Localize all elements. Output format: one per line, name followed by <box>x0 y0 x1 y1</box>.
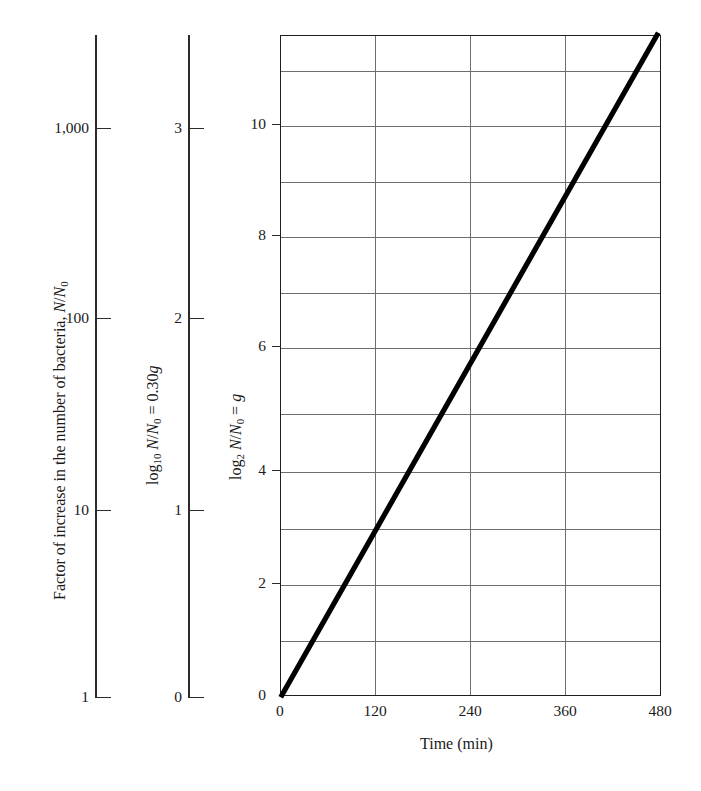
x-axis-tick-label-360: 360 <box>553 702 576 720</box>
factor-axis-caption-lead: Factor of increase in the number of bact… <box>51 313 68 600</box>
log2-axis-caption-equals: = <box>227 402 244 419</box>
log10-axis-line <box>188 35 190 697</box>
log2-axis-tick-label-4: 4 <box>232 462 266 478</box>
log10-axis-tick-2 <box>188 318 204 319</box>
log2-axis-caption-base: 2 <box>234 454 246 459</box>
log10-axis-tick-1 <box>188 510 204 511</box>
log10-axis-tick-0 <box>188 697 204 698</box>
x-axis-tick-label-0: 0 <box>276 702 284 720</box>
x-axis-label: Time (min) <box>420 735 493 753</box>
log10-axis-tick-label-0: 0 <box>150 689 182 705</box>
factor-axis-caption-n0: N <box>51 287 68 298</box>
factor-axis-tick-10 <box>95 510 111 511</box>
log2-axis-caption-g: g <box>227 394 244 402</box>
log10-axis-caption-n: N <box>144 439 161 450</box>
log10-axis-tick-label-3: 3 <box>150 120 182 136</box>
factor-axis-caption-sub0: 0 <box>58 281 70 286</box>
growth-curve-figure: 1,000 100 10 1 Factor of increase in the… <box>0 0 701 791</box>
log10-axis-tick-3 <box>188 128 204 129</box>
factor-axis-caption-n: N <box>51 302 68 313</box>
log10-axis-caption-slash: / <box>144 435 161 439</box>
x-axis-tick-label-240: 240 <box>458 702 481 720</box>
log2-axis-tick-label-2: 2 <box>232 575 266 591</box>
log10-axis-caption: log10 N/N0 = 0.30g <box>145 365 163 485</box>
factor-axis-tick-1000 <box>95 128 111 129</box>
growth-line-svg <box>281 36 662 697</box>
x-axis-tick-label-120: 120 <box>363 702 386 720</box>
log10-axis-tick-label-1: 1 <box>150 502 182 518</box>
log10-axis-caption-n0: N <box>144 424 161 435</box>
log2-axis-tick-label-0: 0 <box>232 687 266 703</box>
log10-axis-tick-label-2: 2 <box>150 310 182 326</box>
factor-axis-caption-slash: / <box>51 297 68 301</box>
plot-area <box>280 35 661 696</box>
log10-axis-caption-sub0: 0 <box>151 418 163 423</box>
log10-axis-caption-base: 10 <box>151 454 163 465</box>
factor-axis-tick-100 <box>95 318 111 319</box>
factor-axis-caption: Factor of increase in the number of bact… <box>52 281 70 600</box>
log10-axis-caption-log: log <box>144 465 161 485</box>
log2-axis-tick-label-6: 6 <box>232 338 266 354</box>
log2-axis-tick-label-8: 8 <box>232 227 266 243</box>
factor-axis-tick-label-1000: 1,000 <box>25 120 89 136</box>
growth-line <box>282 35 657 695</box>
log2-axis-caption-sub0: 0 <box>234 419 246 424</box>
factor-axis-tick-label-1: 1 <box>25 689 89 705</box>
log2-axis-caption-slash: / <box>227 435 244 439</box>
log2-axis-tick-label-10: 10 <box>232 116 266 132</box>
factor-axis-tick-1 <box>95 697 111 698</box>
log2-axis-caption-n0: N <box>227 424 244 435</box>
log2-axis-caption-n: N <box>227 439 244 450</box>
log10-axis-caption-equals: = 0.30 <box>144 373 161 418</box>
factor-axis-line <box>95 35 97 697</box>
log10-axis-caption-g: g <box>144 365 161 373</box>
x-axis-tick-label-480: 480 <box>648 702 671 720</box>
